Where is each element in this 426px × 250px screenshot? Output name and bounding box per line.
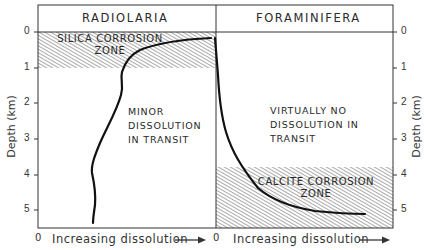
x-label-left: Increasing dissolution	[52, 232, 188, 246]
right-y-axis-title: Depth (km)	[410, 92, 423, 162]
y-tick-label: 3	[401, 132, 407, 143]
note-line: IN TRANSIT	[128, 133, 201, 147]
left-y-ticks	[34, 32, 38, 210]
y-tick-label: 2	[401, 96, 407, 107]
calcite-zone-label: CALCITE CORROSION ZONE	[256, 176, 376, 200]
left-y-axis-title: Depth (km)	[5, 92, 18, 162]
right-y-ticks	[393, 32, 397, 210]
y-tick-label: 0	[24, 25, 30, 36]
y-tick-label: 1	[24, 61, 30, 72]
foraminifera-title: FORAMINIFERA	[256, 11, 361, 25]
y-tick-label: 5	[401, 203, 407, 214]
x-label-right: Increasing dissolution	[233, 232, 369, 246]
note-line: DISSOLUTION	[128, 119, 201, 133]
x-zero-right: 0	[213, 232, 220, 243]
x-zero-left: 0	[35, 232, 42, 243]
note-line: MINOR	[128, 105, 201, 119]
zone-label-line: CALCITE CORROSION	[256, 176, 376, 188]
zone-label-line: SILICA CORROSION	[42, 33, 178, 45]
radiolaria-title: RADIOLARIA	[82, 11, 168, 25]
y-tick-label: 2	[24, 96, 30, 107]
zone-label-line: ZONE	[256, 188, 376, 200]
note-line: VIRTUALLY NO	[270, 104, 359, 118]
zone-label-line: ZONE	[42, 45, 178, 57]
note-line: DISSOLUTION IN	[270, 118, 359, 132]
note-line: TRANSIT	[270, 132, 359, 146]
y-tick-label: 3	[24, 132, 30, 143]
y-tick-label: 4	[24, 168, 30, 179]
y-tick-label: 4	[401, 168, 407, 179]
silica-zone-label: SILICA CORROSION ZONE	[42, 33, 178, 57]
y-tick-label: 0	[401, 25, 407, 36]
y-tick-label: 1	[401, 61, 407, 72]
y-tick-label: 5	[24, 203, 30, 214]
foraminifera-note: VIRTUALLY NO DISSOLUTION IN TRANSIT	[270, 104, 359, 146]
radiolaria-note: MINOR DISSOLUTION IN TRANSIT	[128, 105, 201, 147]
